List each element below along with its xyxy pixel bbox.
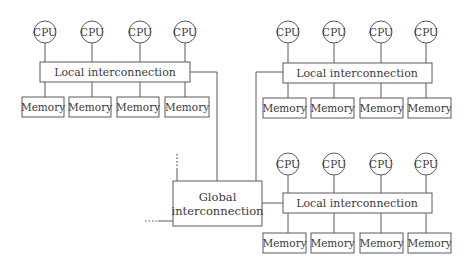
memory-label: Memory xyxy=(165,101,209,113)
memory-label: Memory xyxy=(262,102,306,114)
memory-node: Memory xyxy=(359,233,403,253)
memory-node: Memory xyxy=(68,97,112,117)
memory-label: Memory xyxy=(407,237,451,249)
cpu-label: CPU xyxy=(128,26,152,38)
local-interconnection: Local interconnection xyxy=(283,193,432,213)
cpu-node: CPU xyxy=(369,153,393,175)
local-interconnection-label: Local interconnection xyxy=(296,67,418,80)
memory-node: Memory xyxy=(310,98,354,118)
memory-node: Memory xyxy=(165,97,209,117)
memory-node: Memory xyxy=(407,98,451,118)
memory-node: Memory xyxy=(262,98,306,118)
cpu-label: CPU xyxy=(173,26,197,38)
local-interconnection: Local interconnection xyxy=(283,63,432,83)
memory-node: Memory xyxy=(407,233,451,253)
cpu-label: CPU xyxy=(322,26,346,38)
memory-node: Memory xyxy=(116,97,160,117)
cpu-node: CPU xyxy=(414,21,438,43)
cpu-label: CPU xyxy=(33,26,57,38)
memory-node: Memory xyxy=(21,97,65,117)
memory-node: Memory xyxy=(359,98,403,118)
global-label-line1: Global xyxy=(199,190,237,204)
memory-label: Memory xyxy=(262,237,306,249)
cpu-label: CPU xyxy=(414,26,438,38)
cpu-node: CPU xyxy=(80,21,104,43)
group-top-right: CPU CPU CPU CPU Local interconnection Me… xyxy=(262,21,451,118)
cpu-label: CPU xyxy=(369,26,393,38)
cpu-node: CPU xyxy=(173,21,197,43)
memory-label: Memory xyxy=(359,237,403,249)
local-interconnection: Local interconnection xyxy=(40,62,190,82)
cpu-label: CPU xyxy=(414,158,438,170)
memory-label: Memory xyxy=(407,102,451,114)
multiprocessor-diagram: CPU CPU CPU CPU Local interconnection Me… xyxy=(0,0,472,261)
cpu-node: CPU xyxy=(369,21,393,43)
cpu-node: CPU xyxy=(414,153,438,175)
cpu-node: CPU xyxy=(322,153,346,175)
cpu-node: CPU xyxy=(322,21,346,43)
memory-label: Memory xyxy=(68,101,112,113)
cpu-label: CPU xyxy=(276,26,300,38)
memory-label: Memory xyxy=(359,102,403,114)
group-bottom-right: CPU CPU CPU CPU Local interconnection Me… xyxy=(262,153,451,253)
memory-label: Memory xyxy=(310,102,354,114)
local-interconnection-label: Local interconnection xyxy=(296,197,418,210)
local-interconnection-label: Local interconnection xyxy=(54,66,176,79)
cpu-node: CPU xyxy=(276,153,300,175)
memory-label: Memory xyxy=(21,101,65,113)
cpu-node: CPU xyxy=(33,21,57,43)
connector-top-left xyxy=(190,72,217,181)
cpu-label: CPU xyxy=(276,158,300,170)
group-top-left: CPU CPU CPU CPU Local interconnection Me… xyxy=(21,21,209,117)
memory-label: Memory xyxy=(310,237,354,249)
memory-node: Memory xyxy=(310,233,354,253)
cpu-node: CPU xyxy=(128,21,152,43)
memory-label: Memory xyxy=(116,101,160,113)
cpu-node: CPU xyxy=(276,21,300,43)
cpu-label: CPU xyxy=(369,158,393,170)
cpu-label: CPU xyxy=(322,158,346,170)
cpu-label: CPU xyxy=(80,26,104,38)
global-label-line2: interconnection xyxy=(171,204,264,218)
global-interconnection: Global interconnection xyxy=(171,181,264,226)
memory-node: Memory xyxy=(262,233,306,253)
